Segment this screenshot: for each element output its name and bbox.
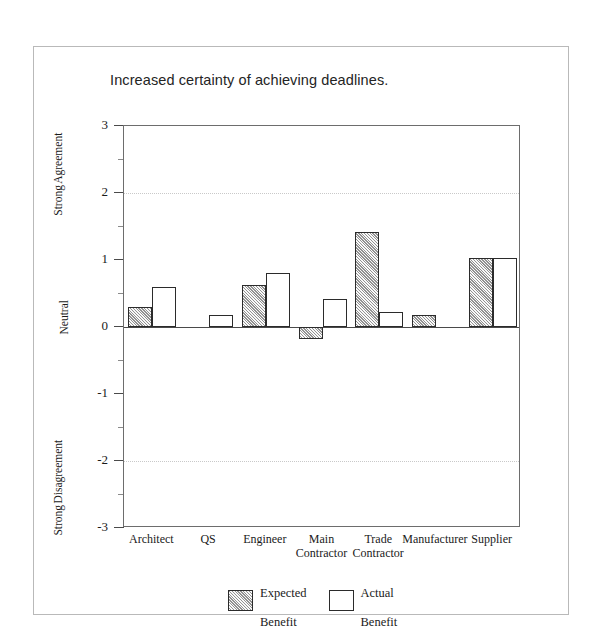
y-tick-major — [114, 527, 124, 528]
bar-actual-main-contractor — [323, 299, 347, 327]
y-axis-anchor-bottom: Strong Disagreement — [52, 440, 64, 536]
y-tick-label: -2 — [78, 452, 108, 468]
bar-expected-trade-contractor — [355, 232, 379, 327]
y-tick-label: 2 — [78, 184, 108, 200]
chart-title: Increased certainty of achieving deadlin… — [110, 72, 388, 88]
bar-actual-architect — [152, 287, 176, 327]
bar-actual-qs — [209, 315, 233, 327]
legend-item-expected-benefit: Expected Benefit — [228, 572, 307, 630]
legend-label-actual-line1: Actual — [361, 586, 394, 600]
bars-layer — [124, 126, 519, 526]
x-tick-label-architect: Architect — [129, 533, 174, 547]
x-tick-label-supplier: Supplier — [471, 533, 512, 547]
x-tick-label-manufacturer: Manufacturer — [402, 533, 467, 547]
legend-label-expected-line1: Expected — [260, 586, 307, 600]
x-tick-label-qs: QS — [200, 533, 215, 547]
legend-item-actual-benefit: Actual Benefit — [329, 572, 398, 630]
y-axis-anchor-middle: Neutral — [58, 300, 70, 334]
bar-actual-engineer — [266, 273, 290, 327]
y-tick-label: -3 — [78, 519, 108, 535]
legend-swatch-actual-benefit — [329, 590, 354, 611]
y-tick-label: 3 — [78, 117, 108, 133]
y-tick-label: 0 — [78, 318, 108, 334]
legend-label-actual-benefit: Actual Benefit — [361, 572, 398, 630]
x-tick-label-trade-contractor: Trade Contractor — [353, 533, 404, 561]
bar-actual-supplier — [493, 258, 517, 327]
y-axis-anchor-top-line2: Agreement — [52, 133, 64, 184]
x-axis-labels: ArchitectQSEngineerMain ContractorTrade … — [123, 533, 520, 573]
bar-expected-main-contractor — [299, 327, 323, 339]
y-axis-anchor-bottom-line1: Strong — [52, 505, 64, 536]
x-tick-label-engineer: Engineer — [243, 533, 286, 547]
y-axis-anchor-bottom-line2: Disagreement — [52, 440, 64, 504]
legend-swatch-expected-benefit — [228, 590, 253, 611]
legend-label-actual-line2: Benefit — [361, 615, 398, 629]
y-axis-anchor-top: Strong Agreement — [52, 133, 64, 216]
bar-actual-trade-contractor — [379, 312, 403, 327]
bar-expected-architect — [128, 307, 152, 327]
y-tick-label: 1 — [78, 251, 108, 267]
y-tick-label: -1 — [78, 385, 108, 401]
legend-label-expected-line2: Benefit — [260, 615, 297, 629]
bar-expected-supplier — [469, 258, 493, 327]
chart-legend: Expected Benefit Actual Benefit — [228, 572, 397, 630]
plot-area — [123, 125, 520, 527]
legend-label-expected-benefit: Expected Benefit — [260, 572, 307, 630]
y-axis-anchor-top-line1: Strong — [52, 185, 64, 216]
bar-expected-manufacturer — [412, 315, 436, 327]
x-tick-label-main-contractor: Main Contractor — [296, 533, 347, 561]
y-axis-labels: 3210-1-2-3 — [76, 125, 108, 527]
bar-expected-engineer — [242, 285, 266, 327]
